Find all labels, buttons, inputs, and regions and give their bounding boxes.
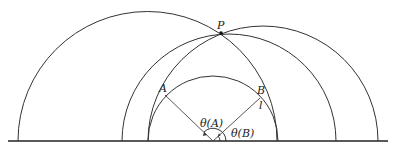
semicircle-large-left bbox=[18, 11, 277, 141]
label-P: P bbox=[216, 19, 225, 32]
label-l: l bbox=[259, 99, 263, 112]
geometry-diagram: P A B l θ(A) θ(B) bbox=[0, 0, 396, 150]
label-theta-B: θ(B) bbox=[231, 127, 254, 140]
diagram-canvas: P A B l θ(A) θ(B) bbox=[0, 0, 396, 150]
label-B: B bbox=[256, 84, 265, 97]
angle-arc-theta-B bbox=[218, 136, 220, 141]
label-theta-A: θ(A) bbox=[200, 117, 223, 130]
semicircle-middle bbox=[122, 34, 336, 141]
label-A: A bbox=[158, 82, 167, 95]
